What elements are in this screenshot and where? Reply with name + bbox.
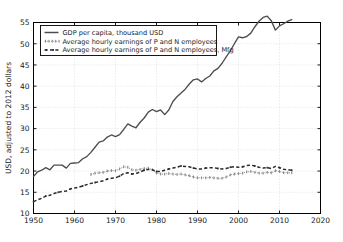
x-tick-label: 1990 (188, 216, 207, 225)
y-axis-title: USD, adjusted to 2012 dollars (4, 62, 13, 174)
data-point-marker (160, 173, 161, 176)
series-line-earnings-pn (91, 167, 292, 178)
data-point-marker (254, 165, 255, 167)
legend-entry-label: GDP per capita, thousand USD (63, 29, 164, 37)
chart-legend: GDP per capita, thousand USDAverage hour… (41, 26, 234, 56)
data-point-marker (205, 176, 206, 179)
y-tick-label: 50 (20, 40, 30, 49)
data-point-marker (291, 171, 292, 174)
x-tick-label: 1980 (147, 216, 166, 225)
x-tick-label: 2020 (311, 216, 330, 225)
data-point-marker (119, 175, 120, 177)
legend-marker (48, 40, 49, 43)
data-point-marker (267, 171, 268, 174)
data-point-marker (279, 167, 280, 169)
data-point-marker (275, 169, 276, 172)
data-point-marker (107, 178, 108, 180)
y-tick-label: 30 (20, 124, 30, 133)
data-point-marker (94, 182, 95, 184)
data-point-marker (82, 185, 83, 187)
data-point-marker (119, 168, 120, 171)
data-point-marker (258, 172, 259, 175)
data-point-marker (45, 195, 46, 197)
y-tick-label: 55 (20, 18, 30, 27)
data-point-marker (181, 173, 182, 176)
y-tick-label: 40 (20, 82, 30, 91)
data-point-marker (267, 167, 268, 169)
x-tick-label: 1960 (65, 216, 84, 225)
data-point-marker (271, 171, 272, 174)
data-point-marker (287, 171, 288, 174)
data-point-marker (107, 170, 108, 173)
data-point-marker (57, 191, 58, 193)
data-point-marker (246, 171, 247, 174)
x-axis-tick-labels: 19501960197019801990200020102020 (24, 216, 330, 225)
legend-marker (52, 40, 53, 43)
data-point-marker (156, 171, 157, 173)
data-point-marker (111, 169, 112, 172)
data-point-marker (164, 173, 165, 176)
data-point-marker (94, 172, 95, 175)
data-point-marker (33, 201, 34, 203)
data-point-marker (131, 173, 132, 175)
y-tick-label: 25 (20, 146, 30, 155)
data-point-marker (230, 166, 231, 168)
data-point-marker (283, 171, 284, 174)
data-point-marker (291, 169, 292, 171)
data-point-marker (242, 172, 243, 175)
data-point-marker (238, 172, 239, 175)
chart-canvas: 19501960197019801990200020102020 1015202… (0, 0, 343, 242)
data-point-marker (193, 167, 194, 169)
data-point-marker (131, 168, 132, 171)
data-point-marker (217, 168, 218, 170)
data-point-marker (90, 173, 91, 176)
legend-marker (55, 40, 56, 43)
data-point-marker (176, 173, 177, 176)
x-tick-label: 2010 (270, 216, 289, 225)
data-point-marker (222, 177, 223, 180)
y-tick-label: 35 (20, 103, 30, 112)
data-point-marker (140, 168, 141, 171)
y-tick-label: 20 (20, 167, 30, 176)
y-tick-label: 15 (20, 188, 30, 197)
data-point-marker (70, 188, 71, 190)
data-point-marker (180, 165, 181, 167)
legend-marker (59, 40, 60, 43)
data-point-marker (144, 169, 145, 171)
data-point-marker (193, 176, 194, 179)
data-point-marker (217, 177, 218, 180)
legend-marker (45, 40, 46, 43)
x-tick-label: 1970 (106, 216, 125, 225)
data-point-marker (185, 173, 186, 176)
data-point-marker (201, 176, 202, 179)
data-point-marker (209, 176, 210, 179)
data-point-marker (135, 169, 136, 172)
series-line-earnings-pn-mfg (34, 165, 292, 202)
data-point-marker (168, 168, 169, 170)
data-point-marker (213, 176, 214, 179)
data-point-marker (230, 173, 231, 176)
data-point-marker (197, 176, 198, 179)
data-point-marker (226, 176, 227, 179)
y-tick-label: 10 (20, 209, 30, 218)
legend-marker (53, 49, 55, 51)
legend-entry-label: Average hourly earnings of P and N emplo… (63, 38, 218, 46)
data-point-marker (254, 171, 255, 174)
chart-figure: 19501960197019801990200020102020 1015202… (0, 0, 343, 242)
data-point-marker (279, 170, 280, 173)
data-point-marker (172, 173, 173, 176)
data-point-marker (205, 167, 206, 169)
data-point-marker (168, 172, 169, 175)
y-axis-tick-labels: 10152025303540455055 (20, 18, 30, 218)
data-point-marker (263, 172, 264, 175)
data-point-marker (127, 166, 128, 169)
legend-marker (46, 49, 48, 51)
x-tick-label: 2000 (229, 216, 248, 225)
data-point-marker (103, 171, 104, 174)
data-point-marker (115, 169, 116, 172)
data-point-marker (189, 174, 190, 177)
data-point-marker (242, 166, 243, 168)
data-point-marker (250, 170, 251, 173)
legend-entry-label: Average hourly earnings of P and N emplo… (63, 46, 234, 54)
data-point-marker (99, 171, 100, 174)
